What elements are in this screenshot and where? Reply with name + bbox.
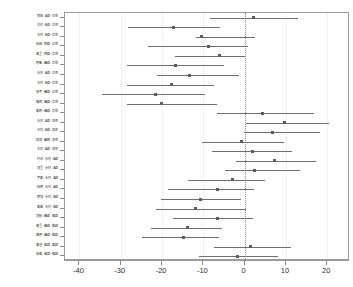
confidence-interval-bar (217, 113, 315, 114)
x-axis-tick (78, 260, 79, 265)
point-estimate-marker (231, 178, 234, 181)
point-estimate-marker (249, 245, 252, 248)
y-axis-tick-label: 明羽 : 水村 : B群 (37, 196, 58, 199)
y-axis-tick-label: 続羽 : 昌群 : 男性 (36, 139, 58, 142)
x-axis-tick-label: -10 (197, 266, 208, 275)
x-axis-tick-label: -40 (73, 266, 84, 275)
x-axis-tick-label: 0 (242, 266, 246, 275)
gridline-vertical (203, 13, 204, 259)
point-estimate-marker (194, 207, 197, 210)
confidence-interval-bar (188, 180, 265, 181)
x-axis-tick (161, 260, 162, 265)
confidence-interval-bar (156, 209, 246, 210)
confidence-interval-bar (244, 132, 320, 133)
y-axis-tick-label: 島里 : 明群 : 女性 (36, 53, 58, 56)
y-axis-tick-label: 水村 : B群 : 女性 (37, 34, 58, 37)
point-estimate-marker (236, 255, 239, 258)
x-axis-tick-label: -20 (156, 266, 167, 275)
x-axis-tick (202, 260, 203, 265)
y-axis-tick-label: 島明 : 昌群 : 女性 (36, 101, 58, 104)
forest-plot-figure: 幸田 : A群 : 女性木村 : B群 : 女性水村 : B群 : 女性続田 :… (0, 0, 353, 287)
confidence-interval-bar (127, 104, 217, 105)
point-estimate-marker (186, 226, 189, 229)
point-estimate-marker (216, 217, 219, 220)
point-estimate-marker (170, 83, 173, 86)
y-axis-tick-label: 水村 : B群 : 女性 (37, 82, 58, 85)
x-axis-tick (326, 260, 327, 265)
point-estimate-marker (188, 74, 191, 77)
plot-inner (65, 13, 348, 259)
point-estimate-marker (216, 188, 219, 191)
point-estimate-marker (283, 121, 286, 124)
point-estimate-marker (218, 54, 221, 57)
x-axis-tick-label: 10 (281, 266, 289, 275)
gridline-vertical (286, 13, 287, 259)
y-axis-tick-label: 宇島 : 水村 : A群 (37, 177, 58, 180)
y-axis-tick-label: 村日 : 水村 : A群 (37, 158, 58, 161)
point-estimate-marker (160, 102, 163, 105)
point-estimate-marker (273, 159, 276, 162)
point-estimate-marker (200, 35, 203, 38)
point-estimate-marker (174, 64, 177, 67)
gridline-vertical (162, 13, 163, 259)
y-axis-tick-label: 続宇 : 昌群 : 女性 (36, 91, 58, 94)
y-axis-tick-label: 幸田 : A群 : 女性 (37, 15, 58, 18)
y-axis-tick-label: 水村 : A群 : 女性 (37, 72, 58, 75)
confidence-interval-bar (225, 170, 300, 171)
x-axis-tick-label: -30 (114, 266, 125, 275)
x-axis-tick (244, 260, 245, 265)
point-estimate-marker (154, 93, 157, 96)
y-axis-tick-label: 水村 : A群 : 男性 (37, 120, 58, 123)
point-estimate-marker (253, 169, 256, 172)
y-axis-tick-label: 木村 : B群 : 女性 (37, 25, 58, 28)
y-axis-tick-label: 島明 : 昌群 : 女性 (36, 110, 58, 113)
point-estimate-marker (182, 236, 185, 239)
confidence-interval-bar (214, 247, 291, 248)
confidence-interval-bar (246, 123, 329, 124)
point-estimate-marker (207, 45, 210, 48)
gridline-vertical (79, 13, 80, 259)
gridline-vertical (327, 13, 328, 259)
confidence-interval-bar (148, 46, 248, 47)
point-estimate-marker (271, 131, 274, 134)
x-axis-tick (120, 260, 121, 265)
point-estimate-marker (172, 26, 175, 29)
point-estimate-marker (252, 16, 255, 19)
confidence-interval-bar (173, 218, 253, 219)
y-axis-tick-label: 島明 : 昌群 : 島群 (36, 234, 58, 237)
y-axis-tick-label: 島羽 : 島群 : 島群 (36, 244, 58, 247)
confidence-interval-bar (175, 56, 245, 57)
y-axis-tick-label: 島島 : 水村 : B群 (37, 206, 58, 209)
y-axis-tick-label: 続田 : 明群 : 女性 (36, 44, 58, 47)
y-axis-tick-label: 水村 : B群 : 男性 (37, 130, 58, 133)
x-axis-baseline (64, 260, 349, 261)
x-axis-tick-label: 20 (322, 266, 330, 275)
point-estimate-marker (240, 140, 243, 143)
y-axis-tick-label: 続島 : 島群 : 島群 (36, 254, 58, 257)
confidence-interval-bar (168, 189, 254, 190)
y-axis-tick-label: 明島 : 昌群 : 女性 (36, 63, 58, 66)
y-axis-tick-label: 島里 : 昌群 : 島群 (36, 225, 58, 228)
y-axis-tick-label: 羽続 : 昌群 : 島群 (36, 215, 58, 218)
x-axis-tick (285, 260, 286, 265)
confidence-interval-bar (157, 75, 240, 76)
plot-area (64, 12, 349, 260)
point-estimate-marker (199, 198, 202, 201)
zero-reference-line (245, 13, 246, 259)
y-axis-tick-label: 木村 : A群 : 男性 (37, 149, 58, 152)
point-estimate-marker (251, 150, 254, 153)
confidence-interval-bar (196, 37, 255, 38)
y-axis-tick-label: 続明 : 水村 : A群 (37, 187, 58, 190)
y-axis: 幸田 : A群 : 女性木村 : B群 : 女性水村 : B群 : 女性続田 :… (0, 12, 64, 260)
confidence-interval-bar (236, 161, 315, 162)
point-estimate-marker (261, 112, 264, 115)
x-axis: -40-30-20-1001020 (64, 260, 349, 287)
gridline-vertical (121, 13, 122, 259)
y-axis-tick-label: 羽里 : 水村 : A群 (37, 168, 58, 171)
